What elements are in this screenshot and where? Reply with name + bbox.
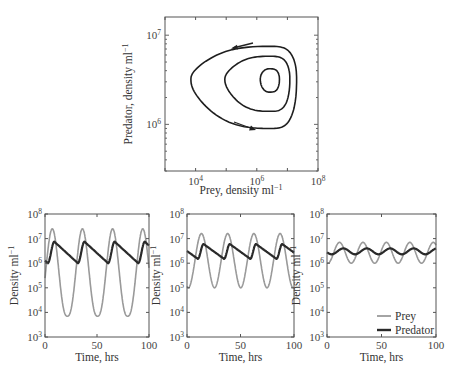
y-tick-label: 107 (169, 232, 184, 245)
y-tick-label: 108 (309, 207, 324, 220)
y-tick-label: 106 (169, 256, 184, 269)
x-tick-label: 50 (376, 339, 388, 351)
plot-frame (327, 214, 436, 337)
y-tick-label: 105 (27, 281, 42, 294)
prey-series-line (45, 229, 149, 316)
y-tick-label: 106 (309, 256, 324, 269)
flow-arrow-bottom (234, 122, 256, 131)
y-tick-label: 103 (27, 330, 42, 343)
phase-plot-frame (165, 17, 318, 171)
legend: Prey Predator (377, 310, 434, 336)
phase-plane-plot: 104106108106107 Prey, density ml−1 Preda… (121, 17, 326, 197)
time-series-right: 103104105106107108050100Time, hrsDensity… (289, 207, 445, 364)
plot-frame (45, 214, 149, 337)
figure: 104106108106107 Prey, density ml−1 Preda… (0, 0, 458, 376)
phase-y-axis-label: Predator, density ml−1 (121, 44, 135, 145)
predator-series-line (45, 242, 149, 264)
phase-orbit (225, 56, 290, 111)
phase-orbit (260, 69, 279, 92)
x-tick-label: 100 (141, 339, 158, 351)
x-tick-label: 0 (184, 339, 190, 351)
y-tick-label: 107 (309, 232, 324, 245)
phase-orbit (191, 46, 297, 128)
phase-y-tick-label: 107 (146, 28, 161, 41)
y-tick-label: 105 (169, 281, 184, 294)
legend-prey-label: Prey (395, 310, 416, 323)
phase-y-tick-label: 106 (146, 117, 161, 130)
x-axis-label: Time, hrs (360, 351, 404, 364)
predator-series-line (187, 244, 294, 259)
y-axis-label: Density ml−1 (289, 246, 303, 305)
y-axis-label: Density ml−1 (149, 246, 163, 305)
y-tick-label: 104 (169, 305, 184, 318)
legend-predator-label: Predator (395, 324, 434, 336)
y-tick-label: 104 (309, 305, 324, 318)
y-tick-label: 105 (309, 281, 324, 294)
x-tick-label: 0 (42, 339, 48, 351)
x-axis-label: Time, hrs (75, 351, 119, 364)
y-tick-label: 108 (169, 207, 184, 220)
x-tick-label: 50 (92, 339, 104, 351)
prey-series-line (187, 234, 294, 288)
y-tick-label: 104 (27, 305, 42, 318)
x-tick-label: 100 (428, 339, 445, 351)
plot-frame (187, 214, 294, 337)
y-tick-label: 106 (27, 256, 42, 269)
x-axis-label: Time, hrs (219, 351, 263, 364)
y-tick-label: 107 (27, 232, 42, 245)
phase-axis-ticks: 104106108106107 (146, 17, 325, 187)
phase-x-axis-label: Prey, density ml−1 (200, 183, 283, 197)
phase-x-tick-label: 108 (311, 174, 326, 187)
time-series-left: 103104105106107108050100Time, hrsDensity… (7, 207, 158, 364)
x-tick-label: 100 (286, 339, 303, 351)
y-axis-label: Density ml−1 (7, 246, 21, 305)
y-tick-label: 103 (309, 330, 324, 343)
phase-orbits (191, 46, 297, 128)
x-tick-label: 50 (235, 339, 247, 351)
x-tick-label: 0 (324, 339, 330, 351)
y-tick-label: 103 (169, 330, 184, 343)
time-series-middle: 103104105106107108050100Time, hrsDensity… (149, 207, 303, 364)
y-tick-label: 108 (27, 207, 42, 220)
